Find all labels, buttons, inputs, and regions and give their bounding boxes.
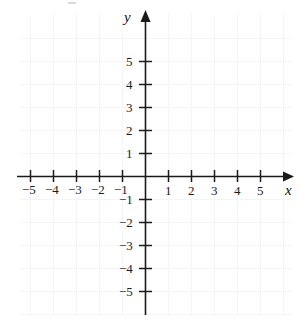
y-tick-label-5: 5 <box>126 55 133 68</box>
coordinate-plane-figure: y x −5 −4 −3 −2 −1 1 2 3 4 5 5 4 3 2 1 −… <box>0 0 307 323</box>
x-axis-arrowhead <box>283 172 294 182</box>
y-tick-label-4: 4 <box>126 78 133 91</box>
y-tick-label--3: −3 <box>119 239 133 252</box>
x-tick-label--3: −3 <box>68 183 82 196</box>
y-tick-label--1: −1 <box>119 193 133 206</box>
y-tick-label--2: −2 <box>119 216 133 229</box>
x-tick-label--4: −4 <box>45 183 59 196</box>
y-tick-label--4: −4 <box>119 262 133 275</box>
y-axis-label: y <box>124 10 131 25</box>
axes-and-ticks <box>0 0 307 323</box>
y-axis-arrowhead <box>141 10 151 22</box>
x-axis-label: x <box>285 183 292 198</box>
y-tick-label-3: 3 <box>126 101 133 114</box>
x-tick-label-2: 2 <box>188 184 195 197</box>
scan-artifact <box>68 2 76 4</box>
x-tick-label--5: −5 <box>22 183 36 196</box>
x-tick-label--2: −2 <box>91 183 105 196</box>
y-tick-label-2: 2 <box>126 124 133 137</box>
y-tick-label--5: −5 <box>119 285 133 298</box>
x-tick-label-5: 5 <box>257 184 264 197</box>
x-tick-label-4: 4 <box>234 184 241 197</box>
x-tick-label-3: 3 <box>211 184 218 197</box>
x-tick-label-1: 1 <box>165 184 172 197</box>
y-tick-label-1: 1 <box>126 147 133 160</box>
